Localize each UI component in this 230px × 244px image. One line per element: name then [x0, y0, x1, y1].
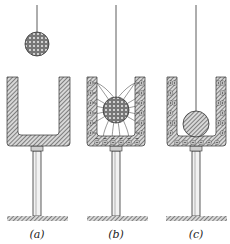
stand-collar [31, 146, 43, 151]
charged-ball [25, 32, 49, 56]
insulating-rod [112, 151, 120, 216]
charged-ball [103, 97, 129, 123]
panel-label-a: (a) [29, 228, 44, 241]
stand-base [7, 216, 68, 221]
insulating-rod [33, 151, 41, 216]
stand-base [166, 216, 227, 221]
faraday-ice-pail-figure [0, 0, 230, 244]
panel-a [7, 5, 70, 221]
insulating-rod [192, 151, 200, 216]
stand-collar [190, 146, 202, 151]
stand-collar [110, 146, 122, 151]
panel-label-b: (b) [108, 228, 124, 241]
panel-label-c: (c) [189, 228, 204, 241]
panel-b [87, 5, 148, 221]
panel-c [166, 5, 227, 221]
conducting-can [7, 77, 70, 146]
charged-ball [183, 111, 209, 137]
stand-base [87, 216, 148, 221]
